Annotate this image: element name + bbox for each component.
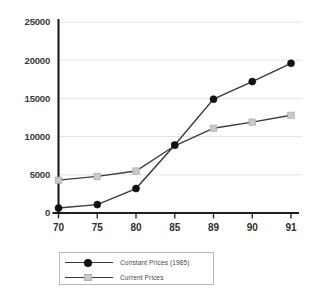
legend-label-constant-prices: Constant Prices (1985) <box>113 259 190 266</box>
series-constant-prices <box>55 60 295 212</box>
x-axis-tick-label: 75 <box>92 222 104 233</box>
data-point-marker <box>288 112 295 118</box>
chart-canvas: 0500010000150002000025000 70758085899091 <box>0 0 309 240</box>
legend-label-current-prices: Current Prices <box>113 274 164 281</box>
line-chart: 0500010000150002000025000 70758085899091… <box>0 0 309 307</box>
x-axis-tick-label: 89 <box>208 222 220 233</box>
data-point-marker <box>133 185 140 192</box>
legend-swatch-circle-icon <box>65 257 113 269</box>
legend-item-constant-prices: Constant Prices (1985) <box>60 255 213 270</box>
data-point-marker <box>288 60 295 67</box>
data-point-marker <box>55 205 62 212</box>
x-axis-tick-label: 91 <box>285 222 297 233</box>
legend-swatch-square-icon <box>65 272 113 284</box>
series-line <box>59 63 292 208</box>
gridlines <box>59 22 303 175</box>
x-axis-tick-label: 80 <box>130 222 142 233</box>
data-point-marker <box>249 119 256 125</box>
data-point-marker <box>94 173 101 179</box>
y-axis-tick-label: 25000 <box>25 16 50 27</box>
y-axis-tick-labels: 0500010000150002000025000 <box>25 16 50 218</box>
x-axis-tick-labels: 70758085899091 <box>53 222 297 233</box>
y-axis-tick-label: 10000 <box>25 131 50 142</box>
legend-item-current-prices: Current Prices <box>60 270 213 285</box>
axis-spines <box>53 19 300 213</box>
x-axis-tick-label: 90 <box>247 222 259 233</box>
x-axis-tick-label: 85 <box>169 222 181 233</box>
plot-area: 0500010000150002000025000 70758085899091 <box>0 0 309 240</box>
y-axis-tick-label: 15000 <box>25 93 50 104</box>
chart-legend: Constant Prices (1985) Current Prices <box>59 252 214 285</box>
data-point-marker <box>171 142 178 149</box>
y-axis-tick-label: 5000 <box>30 169 50 180</box>
data-point-marker <box>210 125 217 131</box>
data-point-marker <box>55 177 62 183</box>
data-point-marker <box>249 78 256 85</box>
data-point-marker <box>94 201 101 208</box>
y-axis-tick-label: 20000 <box>25 55 50 66</box>
data-point-marker <box>133 168 140 174</box>
y-axis-tick-label: 0 <box>45 207 50 218</box>
x-axis-tick-label: 70 <box>53 222 65 233</box>
data-point-marker <box>210 96 217 103</box>
